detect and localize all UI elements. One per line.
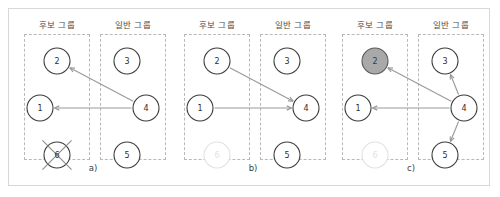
node-3[interactable]: 3 — [274, 48, 300, 74]
edge-4->1 — [55, 106, 132, 110]
node-label: 2 — [372, 57, 377, 66]
edge-4->5 — [450, 121, 458, 141]
node-label: 5 — [124, 151, 129, 160]
node-label: 1 — [355, 104, 360, 113]
node-label: 4 — [143, 104, 148, 113]
node-label: 1 — [197, 104, 202, 113]
panel-caption-a: a) — [13, 163, 173, 173]
node-label: 6 — [372, 151, 377, 160]
node-3[interactable]: 3 — [114, 48, 140, 74]
edge-4->3 — [450, 74, 458, 94]
figure-frame: 후보 그룹 일반 그룹 216345 a) 후보 그룹 일반 그룹 216345… — [8, 8, 490, 186]
node-label: 2 — [54, 57, 59, 66]
edge-1->4 — [215, 106, 292, 110]
node-label: 4 — [303, 104, 308, 113]
node-1[interactable]: 1 — [27, 95, 53, 121]
node-label: 5 — [442, 151, 447, 160]
node-4[interactable]: 4 — [133, 95, 159, 121]
node-label: 6 — [214, 151, 219, 160]
node-2[interactable]: 2 — [204, 48, 230, 74]
panel-c: 후보 그룹 일반 그룹 216345 c) — [331, 9, 491, 185]
node-1[interactable]: 1 — [345, 95, 371, 121]
node-3[interactable]: 3 — [432, 48, 458, 74]
node-4[interactable]: 4 — [293, 95, 319, 121]
node-label: 1 — [37, 104, 42, 113]
node-2[interactable]: 2 — [44, 48, 70, 74]
node-label: 5 — [284, 151, 289, 160]
panel-a: 후보 그룹 일반 그룹 216345 a) — [13, 9, 173, 185]
panel-a-graph: 216345 — [13, 9, 173, 187]
node-2[interactable]: 2 — [362, 48, 388, 74]
panel-b-graph: 216345 — [173, 9, 333, 187]
panel-c-graph: 216345 — [331, 9, 491, 187]
node-label: 3 — [124, 57, 129, 66]
node-4[interactable]: 4 — [451, 95, 477, 121]
edge-4->1 — [373, 106, 450, 110]
node-1[interactable]: 1 — [187, 95, 213, 121]
node-label: 3 — [284, 57, 289, 66]
node-label: 4 — [461, 104, 466, 113]
panel-b: 후보 그룹 일반 그룹 216345 b) — [173, 9, 333, 185]
node-label: 6 — [54, 151, 59, 160]
panel-caption-b: b) — [173, 163, 333, 173]
node-label: 3 — [442, 57, 447, 66]
panel-caption-c: c) — [331, 163, 491, 173]
node-label: 2 — [214, 57, 219, 66]
